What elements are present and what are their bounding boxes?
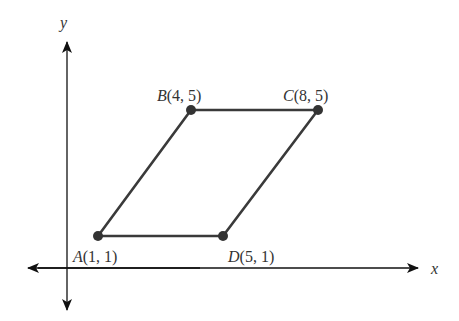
point-d	[218, 231, 228, 241]
label-b: B(4, 5)	[157, 87, 201, 105]
label-a: A(1, 1)	[72, 248, 117, 266]
coordinate-plane: x y A(1, 1) B(4, 5) C(8, 5) D(5, 1)	[0, 0, 459, 321]
point-c	[313, 105, 323, 115]
point-a	[93, 231, 103, 241]
x-axis-label: x	[430, 260, 438, 277]
label-d: D(5, 1)	[227, 248, 274, 266]
point-b	[186, 105, 196, 115]
parallelogram	[98, 110, 318, 236]
label-c: C(8, 5)	[283, 87, 328, 105]
y-axis-label: y	[58, 14, 68, 32]
